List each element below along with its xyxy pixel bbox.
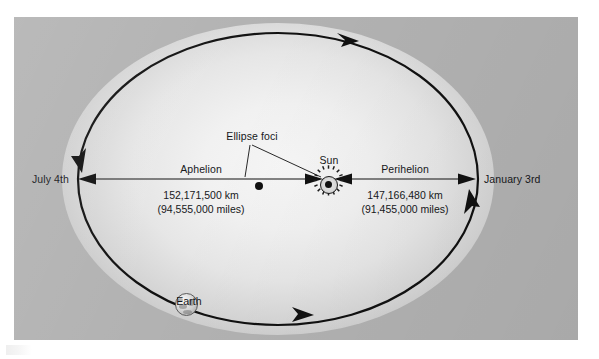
- aphelion-distance-km: 152,171,500 km: [158, 188, 245, 202]
- earth-surface-mark: [183, 310, 192, 314]
- figure-canvas: Ellipse foci Sun Earth July 4th January …: [0, 0, 599, 359]
- ellipse-foci-leader-lines: [245, 145, 321, 177]
- ellipse-foci-label: Ellipse foci: [226, 130, 277, 143]
- illustration-panel: Ellipse foci Sun Earth July 4th January …: [14, 17, 578, 340]
- orbit-arrow-bottom-icon: [292, 307, 314, 322]
- aphelion-distance-block: 152,171,500 km (94,555,000 miles): [158, 188, 245, 216]
- aphelion-distance-miles: (94,555,000 miles): [158, 202, 245, 216]
- perihelion-date-label: January 3rd: [484, 173, 541, 186]
- sun-center-dot: [325, 181, 332, 188]
- foci-dot-icon: [255, 182, 263, 190]
- sun-label: Sun: [320, 154, 339, 167]
- aphelion-date-label: July 4th: [32, 173, 69, 186]
- perihelion-name-label: Perihelion: [381, 163, 429, 176]
- perihelion-distance-km: 147,166,480 km: [362, 188, 449, 202]
- aphelion-name-label: Aphelion: [180, 163, 222, 176]
- perihelion-distance-block: 147,166,480 km (91,455,000 miles): [362, 188, 449, 216]
- sun-icon: [316, 172, 341, 197]
- page-smudge: [6, 345, 32, 355]
- perihelion-distance-miles: (91,455,000 miles): [362, 202, 449, 216]
- earth-label: Earth: [176, 295, 202, 308]
